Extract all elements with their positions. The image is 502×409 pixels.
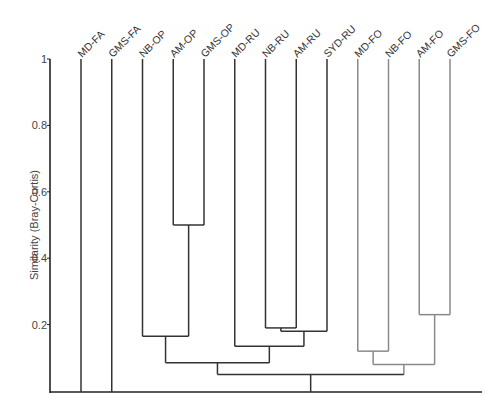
leaf-labels: MD-FAGMS-FANB-OPAM-OPGMS-OPMD-RUNB-RUAM-… [75,21,482,60]
dendrogram-branches [81,59,450,392]
y-tick-label: 1 [41,53,47,65]
y-axis-title: Similarity (Bray-Curtis) [28,170,40,280]
dendrogram-chart: 10.80.60.40.2 Similarity (Bray-Curtis) M… [0,0,502,409]
y-axis: 10.80.60.40.2 [32,53,482,393]
leaf-label: GMS-FA [106,22,143,59]
leaf-label: MD-FA [75,28,107,60]
leaf-label: AM-RU [290,27,323,60]
leaf-label: SYD-RU [321,22,358,59]
leaf-label: NB-FO [382,28,414,60]
y-tick-label: 0.8 [32,119,47,131]
y-axis-title-text: Similarity (Bray-Curtis) [28,170,40,280]
leaf-label: GMS-FO [444,21,482,59]
y-tick-label: 0.2 [32,319,47,331]
leaf-label: AM-FO [413,27,445,59]
leaf-label: AM-OP [167,27,200,60]
leaf-label: NB-RU [259,27,291,59]
